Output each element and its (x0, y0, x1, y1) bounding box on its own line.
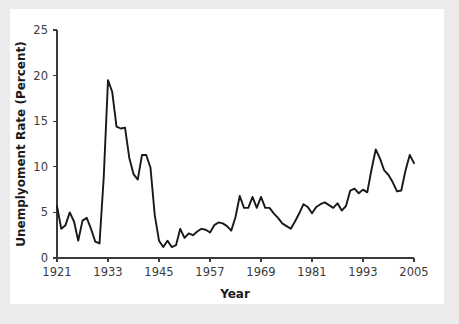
y-tick-label: 20 (33, 69, 48, 83)
figure-panel: 0510152025 19211933194519571969198119932… (10, 9, 444, 304)
unemployment-series-line (57, 80, 414, 247)
y-tick-label: 0 (41, 251, 48, 265)
y-tick-label: 10 (33, 160, 48, 174)
x-tick-label: 1945 (144, 265, 173, 279)
x-tick-label: 1957 (195, 265, 224, 279)
x-tick-label: 1993 (348, 265, 377, 279)
x-tick-label: 1921 (42, 265, 71, 279)
x-tick-label: 1969 (246, 265, 275, 279)
x-tick-label: 1981 (297, 265, 326, 279)
unemployment-line-chart: 0510152025 19211933194519571969198119932… (10, 9, 444, 304)
x-tick-label: 2005 (399, 265, 428, 279)
y-tick-group: 0510152025 (33, 23, 57, 265)
x-axis-title: Year (219, 287, 250, 301)
y-tick-label: 25 (33, 23, 48, 37)
y-tick-label: 5 (41, 205, 48, 219)
x-tick-group: 19211933194519571969198119932005 (42, 258, 428, 279)
y-axis-title: Unemplyoment Rate (Percent) (14, 41, 28, 247)
x-tick-label: 1933 (93, 265, 122, 279)
chart-page: 0510152025 19211933194519571969198119932… (0, 0, 459, 324)
y-tick-label: 15 (33, 114, 48, 128)
